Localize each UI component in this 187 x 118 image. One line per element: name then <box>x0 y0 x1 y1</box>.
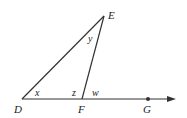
label-f: F <box>77 103 85 115</box>
label-e: E <box>107 9 115 21</box>
angle-label-w: w <box>92 87 99 98</box>
angle-label-z: z <box>71 87 76 98</box>
angle-label-y: y <box>87 33 93 44</box>
point-g-dot <box>146 97 150 101</box>
triangle-diagram: E D F G y x z w <box>0 0 187 118</box>
label-g: G <box>143 103 151 115</box>
angle-label-x: x <box>34 87 40 98</box>
arrowhead-icon <box>167 96 176 102</box>
label-d: D <box>13 103 22 115</box>
